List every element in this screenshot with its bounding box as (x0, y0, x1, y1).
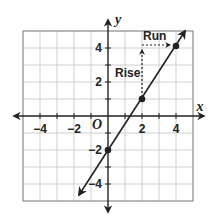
data-point (139, 96, 146, 103)
data-line (79, 31, 185, 195)
x-tick-label: −4 (33, 122, 47, 136)
y-tick-label: 2 (95, 75, 102, 89)
y-tick-label: −2 (88, 143, 102, 157)
x-axis-label: x (196, 99, 204, 114)
coordinate-plane: −4 −2 2 4 4 2 −2 −4 O x y Rise Run (0, 0, 212, 218)
y-axis-label: y (113, 12, 122, 27)
data-point (105, 147, 112, 154)
x-tick-label: 2 (139, 122, 146, 136)
origin-label: O (92, 117, 102, 132)
x-tick-label: 4 (173, 122, 180, 136)
y-tick-label: 4 (95, 41, 102, 55)
y-tick-label: −4 (88, 177, 102, 191)
x-tick-label: −2 (67, 122, 81, 136)
rise-label: Rise (115, 66, 141, 80)
data-point (173, 43, 180, 50)
run-label: Run (143, 29, 166, 43)
